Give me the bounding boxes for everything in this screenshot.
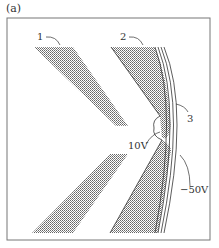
leader-3 (176, 104, 188, 112)
leader-minus50v (180, 155, 190, 186)
electrode-2-lower (110, 140, 171, 233)
electrode-1-upper-band (34, 47, 128, 126)
leader-1 (46, 37, 60, 45)
diagram-canvas: 1 2 3 10V −50V (0, 0, 219, 248)
label-voltage-layer: −50V (180, 184, 209, 195)
label-electrode-1: 1 (37, 31, 43, 42)
label-voltage-tip: 10V (128, 140, 149, 151)
leader-2 (129, 37, 143, 45)
label-layer-3: 3 (187, 113, 193, 124)
label-electrode-2: 2 (120, 31, 126, 42)
electrode-1-lower-band (32, 154, 128, 233)
figure-frame (7, 18, 210, 240)
